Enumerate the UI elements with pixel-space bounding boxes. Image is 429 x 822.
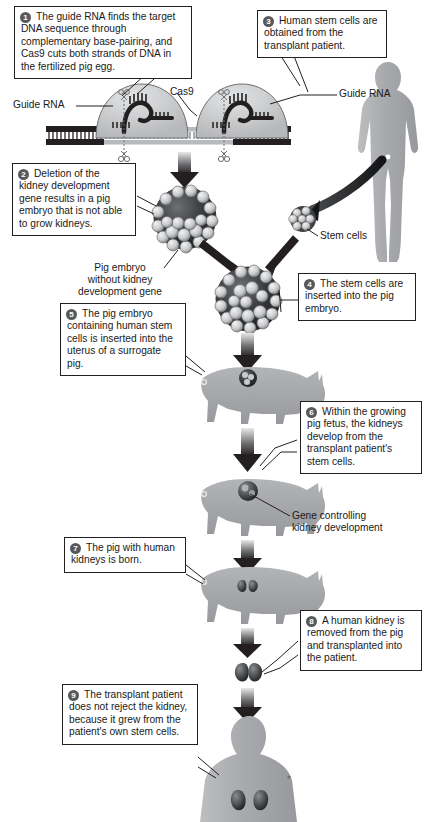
flow-arrow-down bbox=[233, 428, 262, 472]
label-cas9: Cas9 bbox=[170, 86, 194, 98]
transplant-patient-figure bbox=[200, 716, 297, 822]
callout-step-2: 2 Deletion of the kidney development gen… bbox=[12, 163, 136, 236]
kidney-gene-marker bbox=[238, 481, 258, 501]
step-badge-6: 6 bbox=[306, 407, 317, 418]
step-badge-7: 7 bbox=[70, 543, 81, 554]
step-badge-3: 3 bbox=[263, 16, 274, 27]
callout-step-6-text: Within the growing pig fetus, the kidney… bbox=[307, 406, 415, 468]
label-guide-rna-left: Guide RNA bbox=[13, 99, 65, 111]
step-badge-1: 1 bbox=[20, 12, 31, 23]
callout-step-8-text: A human kidney is removed from the pig a… bbox=[307, 615, 415, 665]
step-badge-5: 5 bbox=[66, 309, 77, 320]
stem-cell-extraction-arrow bbox=[306, 160, 382, 221]
callout-step-5-text: The pig embryo containing human stem cel… bbox=[67, 308, 179, 370]
harvested-kidney bbox=[235, 663, 262, 682]
callout-step-1: 1 The guide RNA finds the target DNA seq… bbox=[14, 6, 192, 79]
flow-arrow-down bbox=[233, 333, 262, 372]
label-stem-cells: Stem cells bbox=[320, 230, 367, 242]
callout-step-9-text: The transplant patient does not reject t… bbox=[69, 689, 191, 739]
callout-step-3-text: Human stem cells are obtained from the t… bbox=[264, 15, 380, 52]
callout-step-4-text: The stem cells are inserted into the pig… bbox=[305, 278, 409, 315]
callout-step-4: 4 The stem cells are inserted into the p… bbox=[298, 273, 416, 321]
step-badge-4: 4 bbox=[304, 279, 315, 290]
callout-step-5: 5 The pig embryo containing human stem c… bbox=[60, 303, 186, 376]
label-pig-embryo-without-gene: Pig embryo without kidney development ge… bbox=[62, 262, 178, 299]
callout-step-9: 9 The transplant patient does not reject… bbox=[62, 684, 198, 745]
crispr-pig-kidney-diagram: 1 The guide RNA finds the target DNA seq… bbox=[0, 0, 429, 822]
callout-step-7: 7 The pig with human kidneys is born. bbox=[64, 537, 186, 573]
dna-cas9-complex bbox=[46, 84, 291, 162]
flow-arrow-down bbox=[170, 152, 199, 188]
callout-step-8: 8 A human kidney is removed from the pig… bbox=[300, 610, 422, 671]
step-badge-2: 2 bbox=[18, 169, 29, 180]
step-badge-9: 9 bbox=[68, 690, 79, 701]
label-guide-rna-right: Guide RNA bbox=[339, 88, 391, 100]
stem-cell-cluster bbox=[289, 206, 316, 232]
flow-arrow-down bbox=[233, 628, 262, 658]
callout-step-7-text: The pig with human kidneys is born. bbox=[71, 542, 179, 567]
callout-step-2-text: Deletion of the kidney development gene … bbox=[19, 168, 129, 230]
pig-embryo-blastocyst bbox=[152, 185, 218, 253]
label-gene-controlling-kidney-development: Gene controlling kidney development bbox=[292, 510, 383, 534]
step-badge-8: 8 bbox=[306, 616, 317, 627]
callout-step-3: 3 Human stem cells are obtained from the… bbox=[257, 10, 387, 58]
callout-step-6: 6 Within the growing pig fetus, the kidn… bbox=[300, 401, 422, 474]
implanted-embryo bbox=[239, 369, 257, 387]
chimeric-embryo bbox=[215, 265, 282, 334]
callout-step-1-text: The guide RNA finds the target DNA seque… bbox=[21, 11, 185, 73]
